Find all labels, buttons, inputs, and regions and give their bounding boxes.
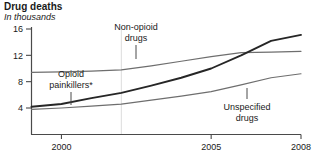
x-tick-label: 2008 — [291, 142, 311, 152]
series-label-opioid-line2: painkillers* — [49, 80, 93, 90]
x-tick-label: 2005 — [201, 142, 221, 152]
series-label-unspecified-line2: drugs — [236, 113, 259, 123]
y-tick-label: 16 — [13, 24, 23, 34]
series-label-non-opioid-line2: drugs — [125, 33, 148, 43]
series-label-non-opioid-line1: Non-opioid — [114, 22, 158, 32]
chart-canvas: 481216 200020052008 Non-opioid drugs Opi… — [0, 0, 316, 158]
series-label-opioid-line1: Opioid — [58, 69, 84, 79]
x-tick-label: 2000 — [51, 142, 71, 152]
y-tick-label: 4 — [18, 103, 23, 113]
x-axis-ticks: 200020052008 — [51, 135, 311, 152]
drug-deaths-chart: Drug deaths In thousands 481216 20002005… — [0, 0, 316, 158]
y-axis-ticks: 481216 — [13, 24, 32, 113]
series-label-unspecified-line1: Unspecified — [223, 102, 270, 112]
y-tick-label: 12 — [13, 51, 23, 61]
y-tick-label: 8 — [18, 77, 23, 87]
